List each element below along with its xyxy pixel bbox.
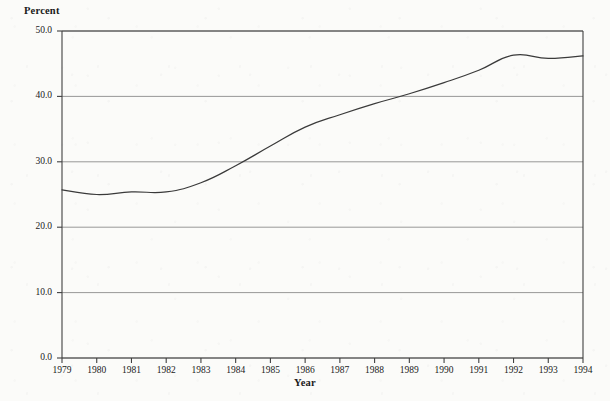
y-tick-label: 40.0 [18, 90, 52, 100]
y-tick-label: 0.0 [18, 352, 52, 362]
y-tick-label: 30.0 [18, 156, 52, 166]
line-chart-figure: Percent Year 0.010.020.030.040.050.0 197… [0, 0, 610, 401]
y-tick-label: 50.0 [18, 25, 52, 35]
y-tick-label: 20.0 [18, 221, 52, 231]
plot-frame [62, 31, 583, 358]
y-tick-marks-group [57, 31, 62, 358]
gridlines-group [62, 31, 583, 358]
x-tick-label: 1994 [563, 365, 603, 375]
x-tick-marks-group [62, 358, 583, 363]
chart-plot-area [0, 0, 610, 401]
data-series-line [62, 55, 583, 195]
y-tick-label: 10.0 [18, 287, 52, 297]
